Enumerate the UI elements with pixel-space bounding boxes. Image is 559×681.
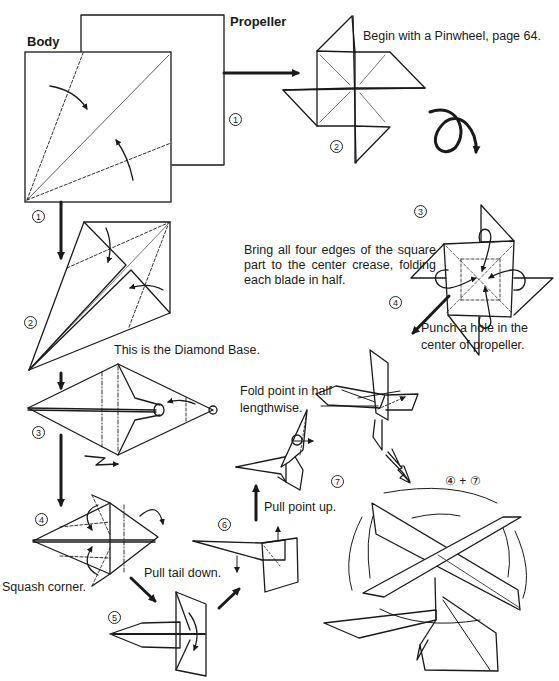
body-square [25,52,171,202]
step-number-body-4: 4 [35,513,48,526]
step-number-propeller-4: 4 [389,296,402,309]
diamond-base-caption: This is the Diamond Base. [114,343,260,358]
propeller-label: Propeller [230,14,286,29]
step-number-body-6: 6 [218,518,231,531]
begin-pinwheel-instruction: Begin with a Pinwheel, page 64. [363,29,541,44]
step-number-propeller-2: 2 [330,140,343,153]
fold-point-instruction-line2: lengthwise. [240,401,303,416]
step-number-body-1: 1 [32,210,45,223]
fold-point-instruction-line1: Fold point in half [240,384,332,399]
propeller-step-4 [316,350,418,450]
step-number-propeller-1: 1 [229,113,242,126]
squash-corner-instruction: Squash corner. [2,580,86,595]
step-number-body-5: 5 [108,611,121,624]
final-assembled-plane [324,488,527,671]
body-step-5 [110,592,206,676]
body-step-3-diamond [28,364,217,465]
step-number-body-7: 7 [331,475,344,488]
step-number-body-2: 2 [24,316,37,329]
pull-point-up-instruction: Pull point up. [264,500,336,515]
step-number-propeller-3: 3 [414,205,427,218]
body-label: Body [27,34,60,49]
punch-hole-instruction-line2: center of propeller. [421,338,525,353]
pull-tail-down-instruction: Pull tail down. [144,566,221,581]
step-number-body-3: 3 [32,426,45,439]
bring-edges-instruction: Bring all four edges of the square part … [244,243,436,288]
combine-steps-label: ④ + ⑦ [445,474,481,489]
body-step-7 [236,410,313,490]
punch-hole-instruction-line1: Punch a hole in the [421,321,528,336]
body-step-6 [193,527,298,592]
